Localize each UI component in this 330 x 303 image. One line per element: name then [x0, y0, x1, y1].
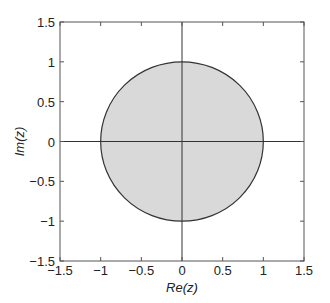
- y-tick-label: −0.5: [29, 174, 55, 189]
- x-tick-label: 0.5: [214, 263, 232, 278]
- y-tick-labels: −1.5−1−0.500.511.5: [29, 15, 55, 269]
- x-tick-label: 1: [260, 263, 267, 278]
- y-tick-label: 0: [48, 135, 55, 150]
- axis-lines: [60, 22, 304, 261]
- y-axis-label: Im(z): [12, 127, 27, 157]
- unit-circle-plot: −1.5−1−0.500.511.5 −1.5−1−0.500.511.5 Re…: [0, 0, 330, 303]
- x-axis-label: Re(z): [166, 280, 198, 295]
- y-tick-label: −1: [40, 214, 55, 229]
- y-tick-label: 1: [48, 55, 55, 70]
- y-tick-label: 0.5: [37, 95, 55, 110]
- x-tick-label: −1: [93, 263, 108, 278]
- y-tick-label: 1.5: [37, 15, 55, 30]
- x-tick-labels: −1.5−1−0.500.511.5: [47, 263, 313, 278]
- x-tick-label: −0.5: [128, 263, 154, 278]
- x-tick-label: 0: [178, 263, 185, 278]
- x-tick-label: 1.5: [295, 263, 313, 278]
- y-tick-label: −1.5: [29, 254, 55, 269]
